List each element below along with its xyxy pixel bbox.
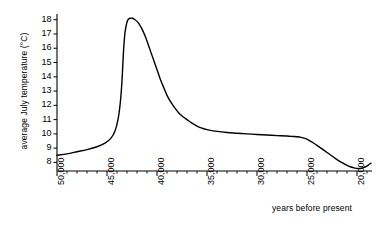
y-tick-label: 13 <box>30 85 52 95</box>
x-tick-label: 20,000 <box>356 157 366 185</box>
y-tick-label: 15 <box>30 57 52 67</box>
x-tick-label: 25,000 <box>306 157 316 185</box>
x-tick-label: 50,000 <box>56 157 66 185</box>
x-tick-label: 35,000 <box>206 157 216 185</box>
y-axis-title: average July temperature (°C) <box>19 11 29 171</box>
y-tick-label: 17 <box>30 28 52 38</box>
x-tick-label: 30,000 <box>256 157 266 185</box>
temperature-curve <box>57 18 371 169</box>
y-tick-label: 18 <box>30 14 52 24</box>
chart-figure: average July temperature (°C) years befo… <box>0 0 380 230</box>
y-tick-label: 8 <box>30 156 52 166</box>
y-tick-label: 10 <box>30 128 52 138</box>
chart-plot-area <box>0 0 380 230</box>
y-tick-label: 9 <box>30 142 52 152</box>
y-tick-label: 16 <box>30 42 52 52</box>
y-tick-label: 14 <box>30 71 52 81</box>
y-tick-label: 12 <box>30 99 52 109</box>
x-axis-title: years before present <box>272 203 352 213</box>
axis-lines <box>57 14 372 171</box>
x-tick-label: 45,000 <box>106 157 116 185</box>
x-tick-label: 40,000 <box>156 157 166 185</box>
y-tick-label: 11 <box>30 114 52 124</box>
